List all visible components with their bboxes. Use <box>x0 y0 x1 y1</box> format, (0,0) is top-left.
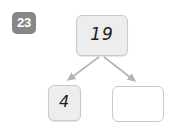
part-right-answer-box[interactable] <box>112 86 164 122</box>
arrow-to-right-part <box>104 57 135 81</box>
number-bond-exercise: 23 19 4 <box>0 0 177 135</box>
part-left-value: 4 <box>59 94 70 110</box>
part-left-box[interactable]: 4 <box>48 85 81 121</box>
whole-number-box[interactable]: 19 <box>76 15 128 56</box>
arrow-to-left-part <box>68 57 99 80</box>
whole-number-value: 19 <box>90 26 114 43</box>
